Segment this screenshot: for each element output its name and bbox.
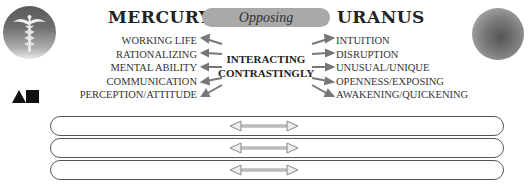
- aspect-label-pill: Opposing: [202, 8, 330, 27]
- triangle-square-icon: [12, 88, 40, 104]
- left-planet-title: MERCURY: [108, 7, 212, 27]
- trait-item: UNUSUAL/UNIQUE: [336, 61, 526, 75]
- right-arrows-icon: [308, 34, 336, 104]
- double-arrows-icon: [228, 118, 300, 182]
- right-planet-title: URANUS: [337, 7, 425, 27]
- trait-item: COMMUNICATION: [37, 75, 197, 89]
- trait-item: MENTAL ABILITY: [37, 61, 197, 75]
- trait-item: INTUITION: [336, 34, 526, 48]
- trait-item: WORKING LIFE: [37, 34, 197, 48]
- trait-item: PERCEPTION/ATTITUDE: [37, 88, 197, 102]
- trait-item: RATIONALIZING: [37, 48, 197, 62]
- trait-item: AWAKENING/QUICKENING: [336, 88, 526, 102]
- center-label: INTERACTING CONTRASTINGLY: [218, 52, 314, 80]
- right-traits-list: INTUITION DISRUPTION UNUSUAL/UNIQUE OPEN…: [336, 34, 526, 102]
- trait-item: OPENNESS/EXPOSING: [336, 75, 526, 89]
- trait-item: DISRUPTION: [336, 48, 526, 62]
- left-traits-list: WORKING LIFE RATIONALIZING MENTAL ABILIT…: [37, 34, 197, 102]
